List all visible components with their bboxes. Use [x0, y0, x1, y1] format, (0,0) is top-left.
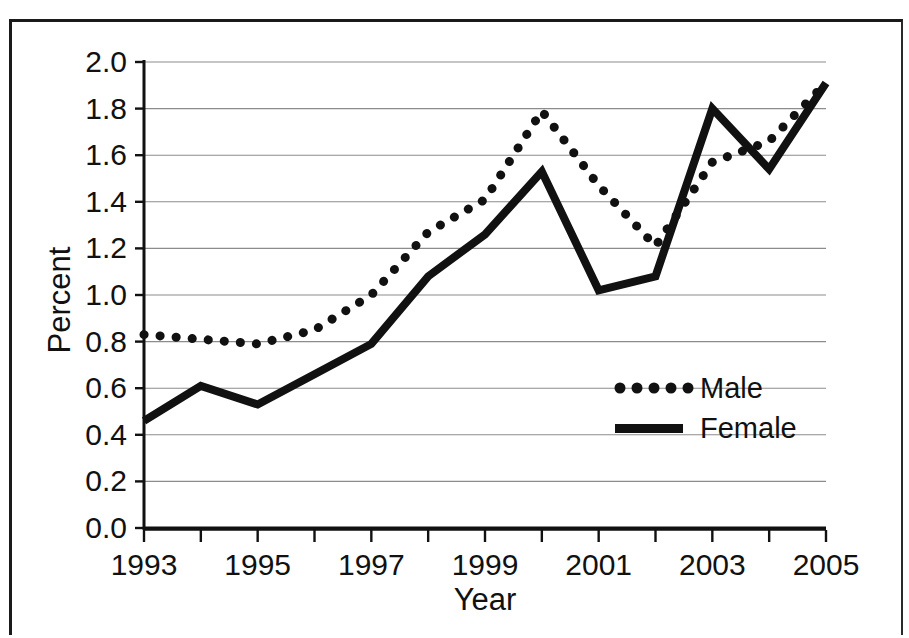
x-tick-label: 1993	[111, 548, 178, 581]
x-axis-title: Year	[454, 582, 517, 617]
y-tick-label: 1.6	[85, 138, 127, 171]
x-tick-label: 1999	[452, 548, 519, 581]
x-tick-label: 2001	[565, 548, 632, 581]
y-tick-label: 0.0	[85, 511, 127, 544]
x-tick-label-group: 1993199519971999200120032005	[111, 548, 860, 581]
y-tick-label: 1.8	[85, 92, 127, 125]
y-tick-label: 0.2	[85, 464, 127, 497]
y-axis-title: Percent	[42, 246, 77, 353]
x-tick-label: 1997	[338, 548, 405, 581]
legend-dot	[666, 383, 677, 394]
solid-line-swatch-icon	[615, 424, 683, 433]
data-series-group	[144, 83, 826, 421]
y-tick-label: 2.0	[85, 45, 127, 78]
x-tick-label: 2005	[793, 548, 860, 581]
x-tick-label: 2003	[679, 548, 746, 581]
gridline-group	[144, 62, 826, 528]
series-line-female	[144, 83, 826, 421]
legend-dot	[632, 383, 643, 394]
x-tick-label: 1995	[224, 548, 291, 581]
legend-dot	[649, 383, 660, 394]
legend-entry-female: Female	[615, 412, 797, 444]
figure-canvas: 0.00.20.40.60.81.01.21.41.61.82.0 199319…	[0, 0, 909, 638]
legend-label-female: Female	[700, 412, 797, 444]
y-tick-label: 1.0	[85, 278, 127, 311]
y-tick-label: 0.6	[85, 371, 127, 404]
y-tick-label: 1.2	[85, 231, 127, 264]
legend-label-male: Male	[700, 372, 763, 404]
x-tick-mark-group	[144, 530, 826, 542]
y-tick-label-group: 0.00.20.40.60.81.01.21.41.61.82.0	[85, 45, 127, 544]
legend-dot	[683, 383, 694, 394]
legend-entry-male: Male	[615, 372, 763, 404]
y-tick-label: 0.4	[85, 418, 127, 451]
line-chart: 0.00.20.40.60.81.01.21.41.61.82.0 199319…	[0, 0, 909, 638]
chart-legend: Male Female	[615, 372, 797, 444]
y-tick-label: 1.4	[85, 185, 127, 218]
legend-dot	[615, 383, 626, 394]
y-tick-label: 0.8	[85, 325, 127, 358]
